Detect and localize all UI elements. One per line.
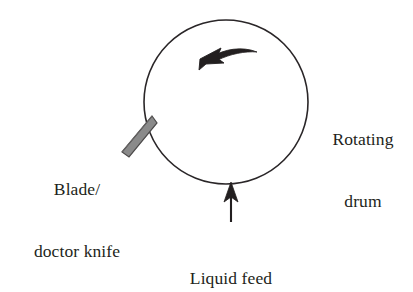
label-liquid-feed-line1: Liquid feed bbox=[166, 268, 296, 289]
label-liquid-feed: Liquid feed bbox=[166, 227, 296, 292]
label-rotating-drum-line1: Rotating bbox=[313, 129, 413, 150]
label-blade: Blade/ doctor knife bbox=[6, 138, 148, 292]
label-rotating-drum-line2: drum bbox=[313, 191, 413, 212]
label-blade-line1: Blade/ bbox=[6, 179, 148, 200]
liquid-feed-arrow bbox=[224, 182, 238, 222]
rotation-direction-arrow bbox=[199, 48, 257, 70]
drum-circle bbox=[144, 20, 308, 184]
label-rotating-drum: Rotating drum bbox=[313, 88, 413, 253]
label-blade-line2: doctor knife bbox=[6, 241, 148, 262]
